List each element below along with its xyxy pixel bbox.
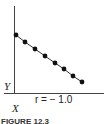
data-point — [53, 61, 58, 66]
x-axis-label: X — [12, 102, 19, 114]
data-point — [43, 54, 48, 59]
data-point — [71, 74, 76, 79]
data-point — [23, 40, 28, 45]
figure-caption: FIGURE 12.3 — [1, 117, 49, 124]
data-point — [62, 67, 67, 72]
y-axis-label: Y — [4, 80, 10, 92]
data-series — [14, 33, 85, 85]
correlation-annotation: r = − 1.0 — [35, 94, 72, 105]
data-point — [14, 33, 19, 38]
data-point — [80, 80, 85, 85]
data-point — [33, 47, 38, 52]
